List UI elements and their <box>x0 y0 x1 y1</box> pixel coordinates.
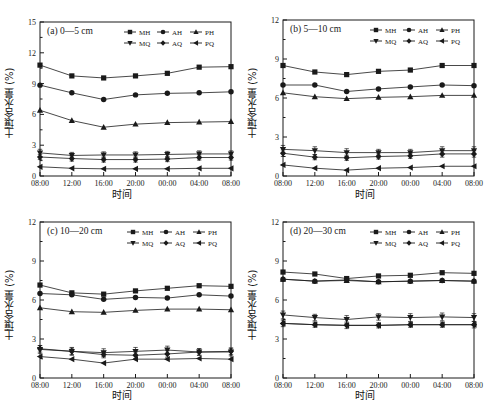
plot-area-b: 03691208:0012:0016:0020:0000:0004:0008:0… <box>243 0 486 201</box>
svg-text:9: 9 <box>32 80 36 89</box>
svg-text:AH: AH <box>418 27 428 35</box>
svg-text:9: 9 <box>275 257 279 266</box>
svg-text:3: 3 <box>275 335 279 344</box>
svg-text:(a) 0—5 cm: (a) 0—5 cm <box>47 26 94 37</box>
svg-text:12: 12 <box>28 49 36 58</box>
svg-text:MH: MH <box>385 229 396 237</box>
svg-text:AQ: AQ <box>172 40 182 48</box>
svg-text:AQ: AQ <box>418 38 428 46</box>
x-axis-label-b: 时间 <box>243 186 486 201</box>
plot-area-c: 03691208:0012:0016:0020:0000:0004:0008:0… <box>0 202 243 403</box>
svg-text:(d) 20—30 cm: (d) 20—30 cm <box>290 226 347 237</box>
svg-text:12: 12 <box>271 16 279 25</box>
svg-text:AQ: AQ <box>418 240 428 248</box>
svg-text:PQ: PQ <box>451 240 460 248</box>
svg-text:6: 6 <box>275 296 279 305</box>
svg-text:PH: PH <box>451 229 460 237</box>
plot-area-a: 0369121508:0012:0016:0020:0000:0004:0008… <box>0 0 243 201</box>
svg-text:MQ: MQ <box>385 240 396 248</box>
x-axis-label-c: 时间 <box>0 387 243 402</box>
svg-text:6: 6 <box>32 296 36 305</box>
chart-panel-b: 土壤含水量 (%) 03691208:0012:0016:0020:0000:0… <box>243 0 486 201</box>
svg-text:AH: AH <box>418 229 428 237</box>
svg-text:6: 6 <box>275 94 279 103</box>
svg-text:3: 3 <box>275 133 279 142</box>
svg-text:(c) 10—20 cm: (c) 10—20 cm <box>47 226 103 237</box>
svg-text:MH: MH <box>142 229 153 237</box>
svg-text:9: 9 <box>275 55 279 64</box>
x-axis-label-a: 时间 <box>0 186 243 201</box>
svg-text:PH: PH <box>205 29 214 37</box>
chart-panel-a: 土壤含水量 (%) 0369121508:0012:0016:0020:0000… <box>0 0 243 201</box>
svg-text:MQ: MQ <box>385 38 396 46</box>
svg-text:6: 6 <box>32 110 36 119</box>
svg-text:PQ: PQ <box>205 40 214 48</box>
svg-text:MQ: MQ <box>139 40 150 48</box>
svg-text:3: 3 <box>32 335 36 344</box>
svg-text:(b) 5—10 cm: (b) 5—10 cm <box>290 24 342 35</box>
svg-text:MH: MH <box>139 29 150 37</box>
chart-panel-d: 土壤含水量 (%) 03691208:0012:0016:0020:0000:0… <box>243 202 486 403</box>
plot-area-d: 03691208:0012:0016:0020:0000:0004:0008:0… <box>243 202 486 403</box>
svg-text:AH: AH <box>175 229 185 237</box>
svg-text:AQ: AQ <box>175 240 185 248</box>
chart-panel-c: 土壤含水量 (%) 03691208:0012:0016:0020:0000:0… <box>0 202 243 403</box>
svg-text:15: 15 <box>28 18 36 27</box>
svg-text:PQ: PQ <box>208 240 217 248</box>
svg-text:AH: AH <box>172 29 182 37</box>
figure-grid: 土壤含水量 (%) 0369121508:0012:0016:0020:0000… <box>0 0 486 403</box>
svg-text:3: 3 <box>32 141 36 150</box>
svg-text:12: 12 <box>28 218 36 227</box>
svg-text:9: 9 <box>32 257 36 266</box>
svg-text:PQ: PQ <box>451 38 460 46</box>
svg-text:MQ: MQ <box>142 240 153 248</box>
svg-text:PH: PH <box>451 27 460 35</box>
x-axis-label-d: 时间 <box>243 387 486 402</box>
svg-text:12: 12 <box>271 218 279 227</box>
svg-text:PH: PH <box>208 229 217 237</box>
svg-text:MH: MH <box>385 27 396 35</box>
